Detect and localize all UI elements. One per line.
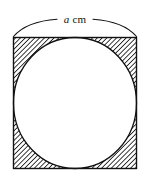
dimension-unit: cm [72,13,86,25]
figure-canvas [0,0,150,182]
geometry-figure: a cm [0,0,150,182]
dimension-label: a cm [0,13,150,25]
